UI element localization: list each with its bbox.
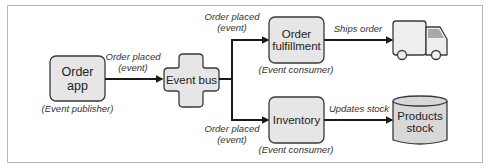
products-stock-label-line1: Products	[397, 110, 442, 122]
order-app-label-line1: Order	[62, 65, 94, 79]
edge-bus-to-fulfillment-label: Order placed (event)	[204, 12, 260, 34]
order-fulfillment-role: (Event consumer)	[256, 65, 336, 76]
order-app-node: Order app	[50, 56, 105, 101]
order-app-label-line2: app	[67, 79, 88, 93]
edge-bus-to-inventory-line2: (event)	[204, 135, 260, 146]
inventory-node: Inventory	[269, 97, 324, 143]
order-fulfillment-label-line1: Order	[282, 28, 311, 40]
products-stock-node: Products stock	[393, 104, 447, 140]
edge-app-to-bus-line2: (event)	[105, 63, 161, 74]
order-fulfillment-node: Order fulfillment	[269, 17, 324, 63]
edge-fulfillment-to-truck-label: Ships order	[328, 24, 388, 35]
order-fulfillment-label-line2: fulfillment	[272, 40, 321, 52]
order-app-role: (Event publisher)	[40, 104, 115, 115]
products-stock-label-line2: stock	[407, 122, 434, 134]
edge-inventory-to-stock-label: Updates stock	[326, 104, 392, 115]
truck-icon	[393, 21, 447, 60]
edge-bus-to-inventory-label: Order placed (event)	[204, 124, 260, 146]
edge-bus-to-fulfillment-line2: (event)	[204, 23, 260, 34]
inventory-role: (Event consumer)	[256, 145, 336, 156]
event-bus-label: Event bus	[164, 68, 219, 91]
edge-app-to-bus-label: Order placed (event)	[105, 52, 161, 74]
